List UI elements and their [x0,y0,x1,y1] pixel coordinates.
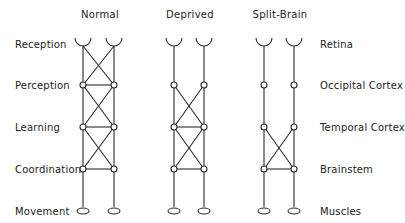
receptor-cup-icon [166,38,182,46]
muscle-icon [258,208,270,214]
receptor-cup-icon [106,38,122,46]
pathway-diagram [0,0,405,223]
column-split-brain [256,38,302,214]
muscle-icon [168,208,180,214]
receptor-cup-icon [286,38,302,46]
muscle-icon [108,208,120,214]
muscle-icon [198,208,210,214]
column-normal [75,38,122,214]
column-deprived [166,38,212,214]
muscle-icon [288,208,300,214]
receptor-cup-icon [75,38,91,46]
receptor-cup-icon [256,38,272,46]
muscle-icon [77,208,89,214]
receptor-cup-icon [196,38,212,46]
